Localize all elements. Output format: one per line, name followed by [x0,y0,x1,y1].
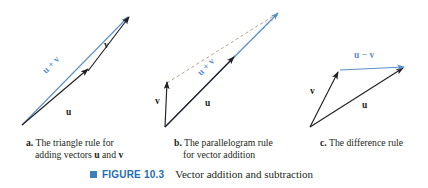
caption-a-mid: and [100,149,119,160]
panel-b-parallelogram-rule-diagram: u + v v u [145,0,295,136]
figure-number: FIGURE 10.3 [102,169,164,180]
caption-c-letter: c. [320,137,327,148]
vector-v-label: v [155,96,160,106]
vector-u-plus-v-label: u + v [40,54,61,76]
vector-u-label: u [362,100,368,110]
panel-captions: a. The triangle rule for adding vectors … [0,136,428,166]
panel-a-triangle-rule-diagram: u + v v u [0,0,150,136]
figure-container: u + v v u u [0,0,428,188]
caption-c-line1: The difference rule [329,137,403,148]
figure-caption: FIGURE 10.3 Vector addition and subtract… [90,168,313,180]
caption-b-line1: The parallelogram rule [184,137,273,148]
vector-v-label: v [310,86,315,96]
caption-b-letter: b. [174,137,182,148]
vector-v-arrow [165,82,167,127]
vector-u-minus-v-label: u − v [354,50,374,60]
caption-panel-b: b. The parallelogram rule for vector add… [174,137,300,161]
vector-u-arrow [22,69,88,125]
vector-u-plus-v-label: u + v [195,56,216,78]
parallelogram-dashed-side-top [167,13,278,83]
vector-u-minus-v-arrow [340,67,404,70]
caption-panel-a: a. The triangle rule for adding vectors … [26,137,156,161]
vector-v-label: v [104,40,109,50]
vector-u-arrow [310,68,403,127]
caption-a-v: v [118,149,123,160]
caption-b-line2: for vector addition [174,149,300,161]
figure-bullet-icon [90,171,97,178]
vector-u-plus-v-arrow [22,17,128,125]
caption-a-line1: The triangle rule for [36,137,114,148]
caption-a-line2-text: adding vectors [35,149,94,160]
vector-u-label: u [66,107,72,117]
caption-panel-c: c. The difference rule [320,137,428,149]
panel-c-difference-rule-diagram: u − v v u [290,0,428,136]
figure-title: Vector addition and subtraction [175,168,313,180]
caption-a-letter: a. [26,137,33,148]
caption-a-line2: adding vectors u and v [26,149,156,161]
vector-u-label: u [205,98,211,108]
